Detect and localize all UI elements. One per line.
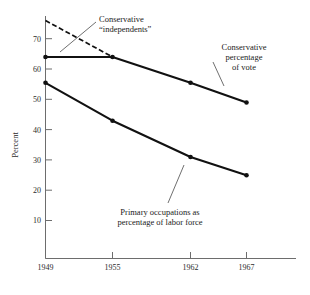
series-primary-occupations-markers	[43, 81, 249, 178]
x-tick-label: 1949	[38, 263, 54, 272]
series-conservative-vote-markers	[43, 55, 249, 105]
x-tick-label: 1955	[105, 263, 121, 272]
x-tick-label: 1962	[183, 263, 199, 272]
y-tick-label: 20	[33, 186, 41, 195]
y-tick-label: 10	[33, 216, 41, 225]
x-axis-ticks	[46, 252, 247, 259]
series-primary-occupations	[46, 83, 247, 175]
line-chart: 70 60 50 40 30 20 10 1949 1955 1962 1967…	[0, 0, 310, 295]
annotation-independents-line1: Conservative	[99, 14, 144, 24]
series-conservative-vote	[46, 57, 247, 103]
leader-line-conservative-vote	[213, 62, 224, 86]
x-axis-tick-labels: 1949 1955 1962 1967	[38, 263, 255, 272]
y-tick-label: 70	[33, 35, 41, 44]
annotation-conservative-vote-line1: Conservative	[222, 42, 267, 52]
annotation-conservative-vote-line3: of vote	[232, 62, 256, 72]
annotation-primary-occupations-line2: percentage of labor force	[117, 217, 202, 227]
leader-line-primary-occupations	[168, 165, 184, 203]
y-axis-ticks	[46, 39, 53, 221]
y-axis-title: Percent	[10, 132, 20, 158]
leader-line-independents	[60, 22, 96, 52]
y-axis-tick-labels: 70 60 50 40 30 20 10	[33, 35, 41, 226]
chart-container: 70 60 50 40 30 20 10 1949 1955 1962 1967…	[0, 0, 310, 295]
y-tick-label: 30	[33, 156, 41, 165]
annotation-conservative-vote: Conservative percentage of vote	[222, 42, 267, 72]
annotation-primary-occupations: Primary occupations as percentage of lab…	[117, 207, 202, 227]
y-tick-label: 50	[33, 95, 41, 104]
y-tick-label: 40	[33, 126, 41, 135]
annotation-independents: Conservative “independents”	[99, 14, 152, 34]
y-tick-label: 60	[33, 65, 41, 74]
annotation-independents-line2: “independents”	[99, 24, 152, 34]
annotation-conservative-vote-line2: percentage	[226, 52, 263, 62]
x-tick-label: 1967	[239, 263, 255, 272]
annotation-primary-occupations-line1: Primary occupations as	[120, 207, 199, 217]
